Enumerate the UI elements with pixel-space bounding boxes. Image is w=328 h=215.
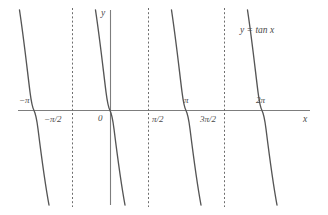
tan-branch-pi <box>172 10 202 205</box>
tan-branch-2pi <box>248 10 278 205</box>
y-axis-label: y <box>101 9 105 19</box>
tick-label-pi-over-2: π/2 <box>152 115 164 124</box>
tick-label-3pi-over-2: 3π/2 <box>200 115 216 124</box>
tangent-function-figure: y x y = tan x −π π 2π −π/2 0 π/2 3π/2 <box>0 0 328 215</box>
equation-annotation: y = tan x <box>240 26 274 36</box>
tick-label-origin: 0 <box>98 114 103 123</box>
x-axis-label: x <box>303 115 307 125</box>
tick-label-2pi: 2π <box>256 96 265 105</box>
tick-label-neg-pi: −π <box>19 96 30 105</box>
plot-canvas <box>0 0 328 215</box>
tick-label-neg-pi-over-2: −π/2 <box>44 115 62 124</box>
tick-label-pi: π <box>184 96 189 105</box>
tan-branch-neg-pi <box>20 10 50 205</box>
